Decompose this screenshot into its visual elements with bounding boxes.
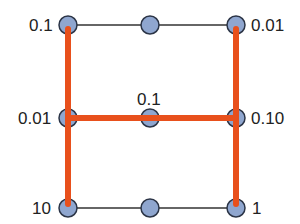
node-top-middle xyxy=(141,16,159,34)
label-bottom-left: 10 xyxy=(32,200,51,217)
label-top-left: 0.1 xyxy=(29,17,53,34)
label-top-right: 0.01 xyxy=(251,17,284,34)
node-bottom-middle xyxy=(141,199,159,217)
label-middle-left: 0.01 xyxy=(18,110,51,127)
label-center: 0.1 xyxy=(137,91,161,108)
label-bottom-right: 1 xyxy=(252,200,261,217)
label-middle-right: 0.10 xyxy=(251,110,284,127)
highlighted-path xyxy=(68,29,236,204)
